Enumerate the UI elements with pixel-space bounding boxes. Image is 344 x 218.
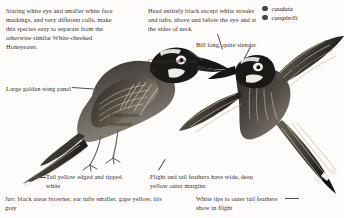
note-bill: Bill long, quite slender bbox=[196, 40, 282, 49]
note-head: Head entirely black except white streaks… bbox=[148, 6, 260, 33]
leader-line-tail bbox=[32, 177, 46, 178]
spread-tail bbox=[276, 120, 337, 194]
note-tail: Tail yellow edged and tipped white bbox=[46, 172, 134, 190]
upper-wing bbox=[276, 36, 344, 87]
note-juvenile: Juv: black areas browner, ear tufts smal… bbox=[5, 194, 165, 212]
note-white-tips: White tips to outer tail feathers show i… bbox=[196, 194, 282, 212]
bird-identification-plate: caudata campbelli Staring white eye and … bbox=[0, 0, 344, 218]
note-wing-panel: Large golden wing panel bbox=[6, 84, 76, 93]
leader-line-white-tips bbox=[285, 198, 299, 199]
note-underparts: Underparts streaked bbox=[110, 110, 162, 128]
note-intro: Staring white eye and smaller white face… bbox=[6, 6, 121, 51]
legend-label-caudata: caudata bbox=[272, 5, 293, 12]
legend-label-campbelli: campbelli bbox=[272, 14, 298, 21]
legend-marker-campbelli bbox=[262, 15, 268, 21]
lower-wing bbox=[179, 92, 242, 132]
note-iris: Conspicuous white iris bbox=[148, 56, 200, 74]
legend-item-caudata[interactable]: caudata bbox=[262, 4, 338, 13]
legend-item-campbelli[interactable]: campbelli bbox=[262, 13, 338, 22]
subspecies-legend: caudata campbelli bbox=[262, 4, 338, 22]
legend-marker-caudata bbox=[262, 6, 268, 12]
note-flight-feathers: Flight and tail feathers have wide, deep… bbox=[150, 172, 268, 190]
